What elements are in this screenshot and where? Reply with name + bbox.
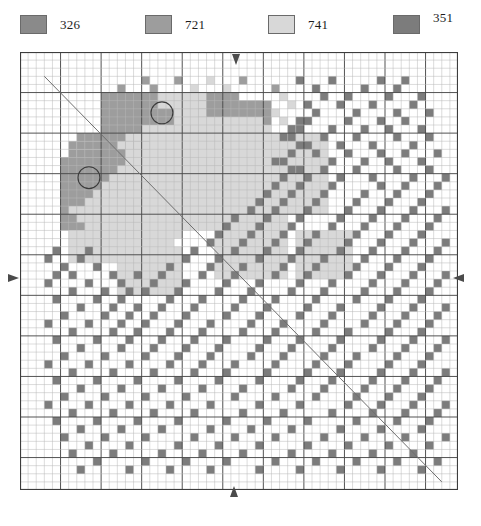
- matrix-cell: [239, 117, 247, 125]
- matrix-cell: [142, 93, 150, 101]
- matrix-cell: [158, 385, 166, 393]
- matrix-cell: [85, 198, 93, 206]
- matrix-cell: [77, 141, 85, 149]
- matrix-cell: [158, 93, 166, 101]
- matrix-cell: [434, 409, 442, 417]
- legend-item-721[interactable]: 721: [145, 13, 205, 35]
- matrix-cell: [69, 328, 77, 336]
- matrix-cell: [158, 303, 166, 311]
- matrix-cell: [109, 328, 117, 336]
- matrix-cell: [174, 287, 182, 295]
- matrix-cell: [44, 360, 52, 368]
- matrix-cell: [174, 376, 182, 384]
- matrix-cell: [166, 263, 174, 271]
- matrix-cell: [369, 312, 377, 320]
- matrix-cell: [125, 141, 133, 149]
- matrix-cell: [134, 376, 142, 384]
- matrix-cell: [117, 214, 125, 222]
- matrix-cell: [401, 279, 409, 287]
- legend-label-741: 741: [308, 18, 328, 31]
- matrix-cell: [247, 157, 255, 165]
- matrix-cell: [434, 279, 442, 287]
- matrix-cell: [361, 157, 369, 165]
- matrix-cell: [150, 409, 158, 417]
- plot-area[interactable]: [20, 52, 458, 490]
- matrix-cell: [271, 360, 279, 368]
- matrix-cell: [393, 84, 401, 92]
- matrix-cell: [369, 376, 377, 384]
- matrix-cell: [320, 133, 328, 141]
- matrix-cell: [85, 174, 93, 182]
- matrix-cell: [336, 247, 344, 255]
- matrix-cell: [101, 393, 109, 401]
- matrix-cell: [134, 263, 142, 271]
- matrix-cell: [207, 174, 215, 182]
- matrix-cell: [134, 198, 142, 206]
- matrix-cell: [69, 449, 77, 457]
- matrix-cell: [215, 157, 223, 165]
- matrix-cell: [271, 84, 279, 92]
- matrix-cell: [215, 149, 223, 157]
- matrix-cell: [198, 198, 206, 206]
- matrix-cell: [166, 328, 174, 336]
- matrix-cell: [247, 141, 255, 149]
- matrix-cell: [223, 458, 231, 466]
- matrix-cell: [190, 214, 198, 222]
- matrix-cell: [101, 182, 109, 190]
- matrix-cell: [263, 133, 271, 141]
- matrix-cell: [231, 141, 239, 149]
- matrix-cell: [142, 190, 150, 198]
- matrix-cell: [231, 360, 239, 368]
- matrix-cell: [101, 174, 109, 182]
- matrix-cell: [109, 101, 117, 109]
- marker-top: [230, 52, 242, 64]
- matrix-cell: [93, 206, 101, 214]
- matrix-cell: [117, 117, 125, 125]
- matrix-cell: [417, 328, 425, 336]
- matrix-cell: [377, 336, 385, 344]
- matrix-cell: [401, 149, 409, 157]
- matrix-cell: [101, 287, 109, 295]
- matrix-cell: [125, 230, 133, 238]
- matrix-cell: [198, 206, 206, 214]
- matrix-cell: [426, 133, 434, 141]
- matrix-cell: [312, 393, 320, 401]
- matrix-cell: [304, 303, 312, 311]
- matrix-cell: [85, 441, 93, 449]
- matrix-cell: [288, 190, 296, 198]
- matrix-cell: [223, 182, 231, 190]
- matrix-cell: [198, 449, 206, 457]
- matrix-cell: [69, 174, 77, 182]
- matrix-cell: [142, 239, 150, 247]
- legend-item-741[interactable]: 741: [268, 13, 328, 35]
- legend-item-326[interactable]: 326: [20, 13, 80, 35]
- matrix-cell: [223, 312, 231, 320]
- matrix-cell: [361, 433, 369, 441]
- matrix-cell: [125, 214, 133, 222]
- matrix-cell: [231, 109, 239, 117]
- matrix-cell: [109, 93, 117, 101]
- matrix-cell: [296, 125, 304, 133]
- matrix-cell: [288, 101, 296, 109]
- matrix-cell: [174, 117, 182, 125]
- legend-item-351[interactable]: 351: [393, 13, 453, 35]
- matrix-cell: [320, 190, 328, 198]
- matrix-cell: [255, 109, 263, 117]
- matrix-cell: [353, 230, 361, 238]
- matrix-cell: [109, 174, 117, 182]
- matrix-cell: [344, 401, 352, 409]
- matrix-cell: [442, 239, 450, 247]
- matrix-cell: [231, 303, 239, 311]
- matrix-cell: [320, 320, 328, 328]
- matrix-cell: [215, 101, 223, 109]
- matrix-plot[interactable]: [20, 52, 458, 490]
- matrix-cell: [85, 320, 93, 328]
- matrix-cell: [109, 247, 117, 255]
- matrix-cell: [198, 328, 206, 336]
- matrix-cell: [134, 109, 142, 117]
- matrix-cell: [101, 214, 109, 222]
- matrix-cell: [109, 206, 117, 214]
- matrix-cell: [434, 214, 442, 222]
- matrix-cell: [69, 368, 77, 376]
- matrix-cell: [296, 141, 304, 149]
